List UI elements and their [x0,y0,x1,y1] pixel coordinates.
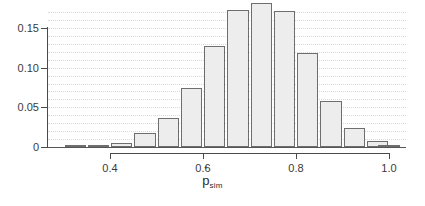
histogram-bar [158,118,179,147]
y-axis-tick-label: 0.10 [0,63,39,74]
histogram-bar [227,10,248,147]
y-axis-tick-label: 0.15 [0,23,39,34]
histogram-bar [204,46,225,147]
y-axis-tick [41,68,47,69]
x-axis-line [110,153,389,154]
x-axis-tick-label: 0.4 [90,163,130,174]
histogram-bar [251,3,272,147]
histogram-bar [320,101,341,147]
histogram-bar [181,88,202,147]
x-axis-tick-label: 1.0 [369,163,409,174]
histogram-bar [274,11,295,147]
histogram-bar [297,53,318,147]
x-axis-tick [203,153,204,159]
y-axis-tick [41,147,47,148]
x-axis-title: ˆpsim [0,175,425,192]
y-axis-tick [41,107,47,108]
x-axis-tick [296,153,297,159]
x-axis-title-symbol: ˆp [202,175,209,187]
x-axis-tick [389,153,390,159]
axis-baseline [48,147,406,148]
x-axis-tick [110,153,111,159]
y-axis-tick-label: 0 [0,142,39,153]
y-axis-tick [41,28,47,29]
y-axis-line [47,27,48,148]
plot-area [48,8,406,148]
histogram-bar [344,128,365,147]
hat-accent: ˆ [204,167,207,177]
x-axis-tick-label: 0.8 [276,163,316,174]
y-axis-tick-label: 0.05 [0,102,39,113]
histogram-bar [134,133,155,147]
x-axis-title-subscript: sim [210,181,223,190]
histogram-figure: 00.050.100.15 0.40.60.81.0 ˆpsim [0,0,425,206]
